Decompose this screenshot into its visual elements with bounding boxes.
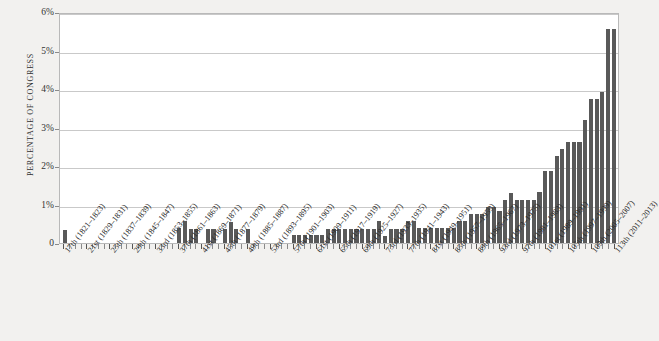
y-axis-tick-label: 2% — [14, 162, 54, 172]
y-axis-tick-label: 6% — [14, 8, 54, 18]
y-axis-title: PERCENTAGE OF CONGRESS — [26, 15, 35, 215]
bar — [383, 236, 387, 243]
bar-cell — [611, 14, 617, 243]
y-axis-tick-label: 1% — [14, 201, 54, 211]
bar — [572, 142, 576, 243]
y-axis-tick-label: 0 — [14, 239, 54, 249]
bar — [577, 142, 581, 243]
bar — [63, 230, 67, 243]
bar — [600, 92, 604, 243]
y-axis-tick-label: 5% — [14, 47, 54, 57]
x-axis-tick-labels: 17th (1821–1823)21st (1829–1831)25th (18… — [59, 249, 619, 341]
y-axis-tick-label: 4% — [14, 85, 54, 95]
bar — [612, 29, 616, 243]
bar — [314, 235, 318, 243]
bar — [292, 235, 296, 243]
y-axis-tick-label: 3% — [14, 124, 54, 134]
x-axis-tick-label: 113th (2011–2013) — [613, 199, 659, 254]
